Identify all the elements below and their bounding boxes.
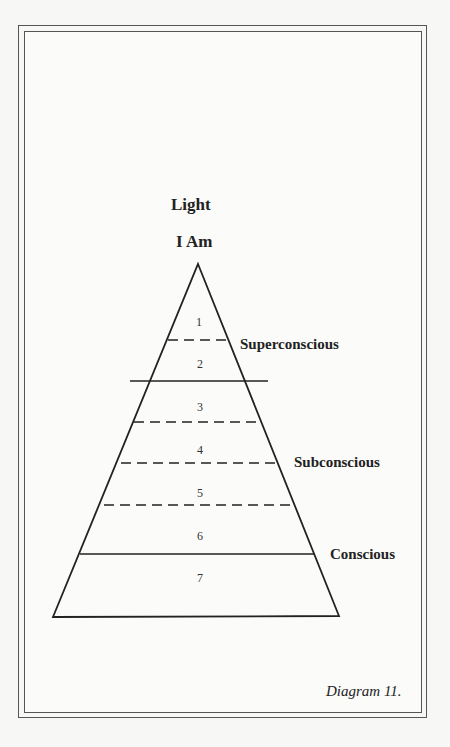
pyramid-diagram: 1 2 3 4 5 6 7 (0, 0, 450, 747)
superconscious-label: Superconscious (240, 336, 339, 353)
diagram-caption: Diagram 11. (326, 683, 402, 700)
conscious-label: Conscious (330, 546, 395, 563)
subconscious-label: Subconscious (294, 454, 380, 471)
level-2-number: 2 (197, 357, 203, 371)
level-1-number: 1 (196, 315, 202, 329)
level-5-number: 5 (197, 486, 203, 500)
level-6-number: 6 (197, 529, 203, 543)
level-3-number: 3 (197, 400, 203, 414)
level-4-number: 4 (197, 443, 203, 457)
level-7-number: 7 (197, 571, 203, 585)
